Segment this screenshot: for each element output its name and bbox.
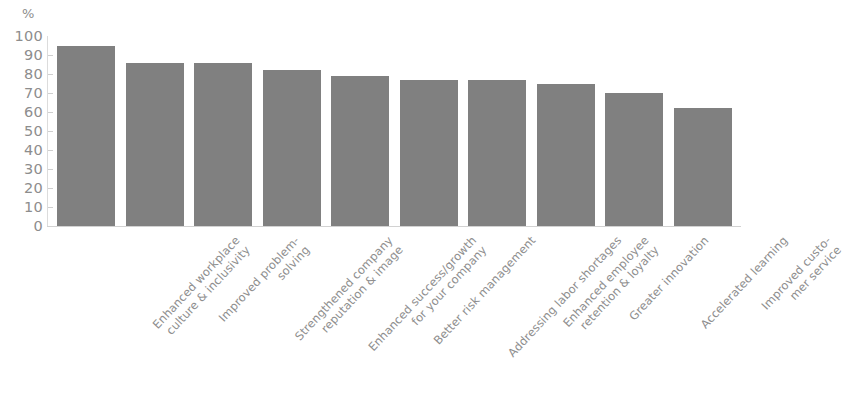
bar[interactable] xyxy=(605,93,663,226)
y-axis-tick-label: 50 xyxy=(24,124,43,139)
plot-area xyxy=(49,30,739,226)
bar[interactable] xyxy=(400,80,458,226)
y-axis-tick-label: 60 xyxy=(24,105,43,120)
y-axis: 1009080706050403020100 xyxy=(0,0,46,405)
bar[interactable] xyxy=(537,84,595,227)
y-axis-tick-label: 10 xyxy=(24,200,43,215)
bar[interactable] xyxy=(57,46,115,227)
y-axis-tick-label: 100 xyxy=(14,29,43,44)
bar[interactable] xyxy=(674,108,732,226)
y-axis-tick-label: 0 xyxy=(33,219,43,234)
y-axis-tick-label: 80 xyxy=(24,67,43,82)
bar[interactable] xyxy=(194,63,252,226)
y-axis-line xyxy=(47,36,48,226)
y-axis-tick-label: 30 xyxy=(24,162,43,177)
bar[interactable] xyxy=(331,76,389,226)
bar[interactable] xyxy=(468,80,526,226)
y-axis-tick-label: 70 xyxy=(24,86,43,101)
bar[interactable] xyxy=(126,63,184,226)
x-axis-baseline xyxy=(47,226,741,227)
bar[interactable] xyxy=(263,70,321,226)
y-axis-tick-label: 40 xyxy=(24,143,43,158)
y-axis-tick-label: 20 xyxy=(24,181,43,196)
y-axis-tick-label: 90 xyxy=(24,48,43,63)
